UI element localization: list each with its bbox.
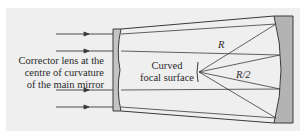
radius-label: R <box>217 39 225 50</box>
focal-label-line2: focal surface <box>140 72 194 83</box>
tube-top-edge <box>121 16 274 29</box>
half-radius-label: R/2 <box>235 69 251 80</box>
corrector-label-line2: centre of curvature <box>25 67 105 78</box>
focal-surface <box>197 62 198 82</box>
corrector-label-line3: of the main mirror <box>27 79 105 90</box>
corrector-lens <box>113 29 121 111</box>
main-mirror <box>274 16 293 123</box>
focal-label-line1: Curved <box>152 60 184 71</box>
schmidt-telescope-diagram: Corrector lens at the centre of curvatur… <box>0 0 306 139</box>
corrector-label-line1: Corrector lens at the <box>19 55 105 66</box>
